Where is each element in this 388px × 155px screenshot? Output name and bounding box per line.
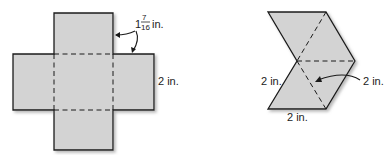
triangle-net: [268, 12, 360, 109]
bottom-side-label: 2 in.: [287, 111, 308, 123]
left-side-label: 2 in.: [261, 75, 282, 87]
cross-net: [13, 13, 154, 150]
side-length-numerator: 7: [142, 13, 147, 22]
side-length-unit: in.: [152, 18, 164, 30]
width-label: 2 in.: [158, 75, 179, 87]
side-length-denominator: 16: [141, 23, 150, 32]
nets-diagram: 1 7 16 in. 2 in. 2 in. 2 in. 2 in.: [0, 0, 388, 155]
right-side-label: 2 in.: [363, 75, 384, 87]
